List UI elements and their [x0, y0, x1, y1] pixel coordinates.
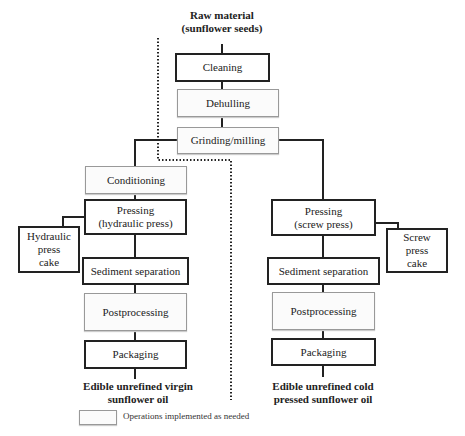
step-label: Sediment separation [279, 265, 369, 278]
output-right: Edible unrefined cold pressed sunflower … [255, 380, 391, 406]
output-line1: Edible unrefined virgin [78, 380, 198, 393]
legend-swatch [79, 410, 117, 425]
output-left: Edible unrefined virgin sunflower oil [78, 380, 198, 406]
byproduct-line1: Screw [403, 231, 431, 244]
step-label-line2: (hydraulic press) [98, 217, 172, 230]
legend-label: Operations implemented as needed [123, 411, 249, 421]
byproduct-line3: cake [39, 256, 59, 269]
byproduct-screw-press-cake: Screw press cake [386, 228, 448, 273]
step-label: Conditioning [107, 174, 165, 187]
byproduct-line3: cake [407, 257, 427, 270]
step-label: Dehulling [206, 97, 250, 110]
byproduct-line1: Hydraulic [27, 230, 71, 243]
raw-material-line2: (sunflower seeds) [160, 22, 284, 35]
step-conditioning: Conditioning [85, 166, 187, 194]
step-packaging-left: Packaging [84, 340, 187, 369]
step-sediment-separation-left: Sediment separation [82, 257, 189, 285]
step-dehulling: Dehulling [177, 89, 279, 117]
step-sediment-separation-right: Sediment separation [267, 257, 380, 285]
step-label: Grinding/milling [191, 134, 266, 147]
step-grinding-milling: Grinding/milling [177, 127, 279, 154]
output-line2: pressed sunflower oil [255, 393, 391, 406]
byproduct-line2: press [406, 244, 429, 257]
raw-material-line1: Raw material [160, 9, 284, 22]
step-packaging-right: Packaging [271, 338, 376, 366]
step-label: Cleaning [203, 61, 243, 74]
step-postprocessing-left: Postprocessing [84, 293, 187, 331]
byproduct-hydraulic-press-cake: Hydraulic press cake [18, 226, 80, 273]
step-label: Sediment separation [91, 265, 181, 278]
step-postprocessing-right: Postprocessing [272, 292, 375, 330]
step-label: Packaging [113, 348, 159, 361]
step-label: Packaging [301, 346, 347, 359]
step-pressing-hydraulic: Pressing (hydraulic press) [84, 199, 187, 235]
step-label-line2: (screw press) [294, 218, 352, 231]
step-pressing-screw: Pressing (screw press) [271, 199, 376, 236]
output-line1: Edible unrefined cold [255, 380, 391, 393]
step-label: Postprocessing [103, 306, 169, 319]
step-label-line1: Pressing [117, 204, 154, 217]
step-label-line1: Pressing [305, 205, 342, 218]
byproduct-line2: press [38, 243, 61, 256]
step-label: Postprocessing [291, 305, 357, 318]
step-cleaning: Cleaning [175, 53, 270, 82]
raw-material-label: Raw material (sunflower seeds) [160, 9, 284, 35]
output-line2: sunflower oil [78, 393, 198, 406]
